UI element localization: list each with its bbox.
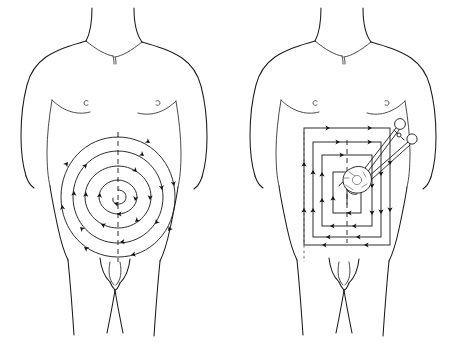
illustration-canvas [0,0,458,345]
instrument-ring-handle-lower [407,134,417,144]
instrument-pivot [397,133,401,137]
instrument-head [343,166,371,193]
figure-root: Abdominal massage direction patterns [0,0,458,345]
canvas-background [0,0,458,345]
